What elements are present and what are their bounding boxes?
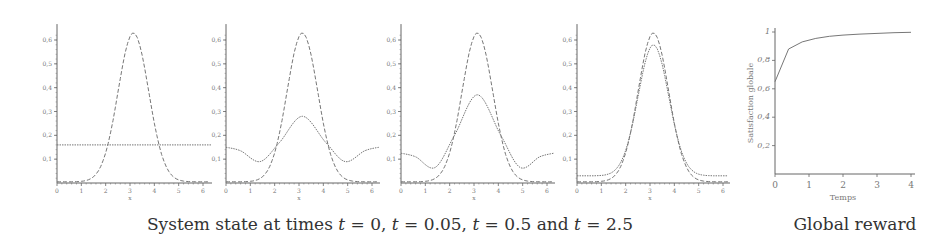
x-tick-label: 6 xyxy=(545,187,549,194)
x-tick-label: 2 xyxy=(448,187,452,194)
y-tick-label: 0,1 xyxy=(386,155,396,162)
x-tick-label: 0 xyxy=(772,180,778,190)
y-tick-label: 0,2 xyxy=(562,131,572,138)
x-axis-label: x xyxy=(472,194,476,201)
series-target xyxy=(577,33,728,182)
x-axis-label: Temps xyxy=(830,193,856,202)
y-tick-label: 1 xyxy=(765,27,770,36)
y-tick-label: 0,4 xyxy=(42,84,52,91)
series-state xyxy=(577,45,728,176)
state-plot-t25: 01234560,10,20,30,40,50,6x xyxy=(562,24,730,201)
y-tick-label: 0,4 xyxy=(757,112,770,121)
x-tick-label: 3 xyxy=(874,180,880,190)
series-state xyxy=(401,95,554,168)
y-tick-label: 0,2 xyxy=(757,141,770,150)
y-tick-label: 0,8 xyxy=(757,55,770,64)
y-tick-label: 0,4 xyxy=(386,84,396,91)
state-plot-t05: 01234560,10,20,30,40,50,6x xyxy=(386,24,555,201)
x-tick-label: 5 xyxy=(521,187,525,194)
x-tick-label: 5 xyxy=(697,187,701,194)
caption-system-state: System state at times t = 0, t = 0.05, t… xyxy=(120,214,660,234)
x-tick-label: 1 xyxy=(79,187,83,194)
series-state xyxy=(226,116,379,161)
x-tick-label: 4 xyxy=(152,187,156,194)
series-target xyxy=(57,33,208,182)
x-tick-label: 3 xyxy=(128,187,132,194)
x-tick-label: 1 xyxy=(806,180,812,190)
x-tick-label: 0 xyxy=(575,187,579,194)
y-tick-label: 0,4 xyxy=(562,84,572,91)
y-tick-label: 0,6 xyxy=(562,36,572,43)
x-tick-label: 6 xyxy=(721,187,725,194)
x-tick-label: 1 xyxy=(599,187,603,194)
x-tick-label: 4 xyxy=(321,187,325,194)
x-tick-label: 2 xyxy=(840,180,846,190)
x-tick-label: 6 xyxy=(201,187,205,194)
series-satisfaction xyxy=(775,32,911,81)
y-tick-label: 0,5 xyxy=(562,60,572,67)
y-tick-label: 0,2 xyxy=(42,131,52,138)
y-tick-label: 0,5 xyxy=(42,60,52,67)
global-reward-plot: 012340,20,40,60,81TempsSatisfaction glob… xyxy=(746,27,915,202)
x-axis-label: x xyxy=(297,194,301,201)
x-tick-label: 2 xyxy=(104,187,108,194)
x-tick-label: 1 xyxy=(248,187,252,194)
x-axis-label: x xyxy=(648,194,652,201)
series-target xyxy=(401,33,552,182)
y-tick-label: 0,3 xyxy=(386,108,396,115)
y-tick-label: 0,6 xyxy=(211,36,221,43)
x-tick-label: 6 xyxy=(370,187,374,194)
x-tick-label: 4 xyxy=(908,180,914,190)
y-tick-label: 0,2 xyxy=(386,131,396,138)
state-plot-t005: 01234560,10,20,30,40,50,6x xyxy=(211,24,380,201)
y-tick-label: 0,3 xyxy=(562,108,572,115)
x-tick-label: 4 xyxy=(672,187,676,194)
y-tick-label: 0,3 xyxy=(42,108,52,115)
x-tick-label: 3 xyxy=(648,187,652,194)
x-tick-label: 1 xyxy=(423,187,427,194)
y-tick-label: 0,6 xyxy=(42,36,52,43)
x-tick-label: 2 xyxy=(273,187,277,194)
x-tick-label: 0 xyxy=(55,187,59,194)
x-tick-label: 2 xyxy=(624,187,628,194)
y-tick-label: 0,1 xyxy=(562,155,572,162)
x-tick-label: 0 xyxy=(224,187,228,194)
x-tick-label: 3 xyxy=(472,187,476,194)
y-tick-label: 0,2 xyxy=(211,131,221,138)
series-target xyxy=(226,33,377,182)
x-tick-label: 5 xyxy=(346,187,350,194)
x-tick-label: 3 xyxy=(297,187,301,194)
y-tick-label: 0,3 xyxy=(211,108,221,115)
y-tick-label: 0,5 xyxy=(211,60,221,67)
state-plot-t0: 01234560,10,20,30,40,50,6x xyxy=(42,24,212,201)
x-tick-label: 0 xyxy=(399,187,403,194)
x-axis-label: x xyxy=(128,194,132,201)
y-tick-label: 0,6 xyxy=(386,36,396,43)
y-tick-label: 0,4 xyxy=(211,84,221,91)
y-tick-label: 0,5 xyxy=(386,60,396,67)
y-tick-label: 0,6 xyxy=(757,84,770,93)
x-tick-label: 4 xyxy=(496,187,500,194)
y-tick-label: 0,1 xyxy=(211,155,221,162)
y-axis-label: Satisfaction globale xyxy=(746,63,755,144)
x-tick-label: 5 xyxy=(177,187,181,194)
y-tick-label: 0,1 xyxy=(42,155,52,162)
figure: 01234560,10,20,30,40,50,6x 01234560,10,2… xyxy=(0,0,951,245)
caption-global-reward: Global reward xyxy=(780,214,930,234)
